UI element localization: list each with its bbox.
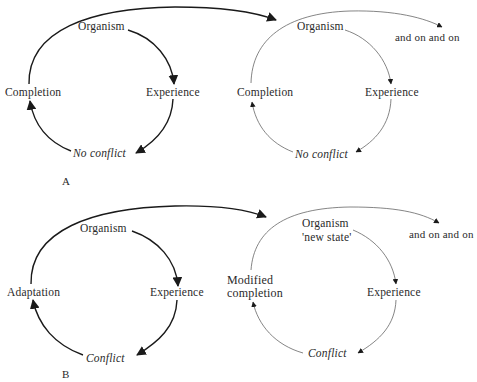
node-modified-completion-line2: completion	[227, 287, 283, 300]
continuation-text: and on and on	[409, 228, 474, 241]
node-outcome: No conflict	[295, 148, 348, 161]
node-adaptation: Adaptation	[7, 286, 60, 299]
cycle-diagram-arrows	[0, 0, 477, 382]
node-organism: Organism	[297, 20, 344, 33]
node-organism: Organism	[78, 20, 125, 33]
node-outcome: Conflict	[86, 352, 125, 365]
node-outcome: No conflict	[73, 147, 126, 160]
node-completion: Completion	[5, 86, 61, 99]
node-experience: Experience	[150, 286, 204, 299]
node-completion: Completion	[237, 86, 293, 99]
panel-letter-a: A	[62, 175, 70, 187]
continuation-text: and on and on	[395, 31, 460, 44]
panel-letter-b: B	[62, 368, 69, 380]
node-experience: Experience	[367, 286, 421, 299]
panel-a-cycle-1-arrows	[29, 7, 276, 153]
node-organism: Organism	[80, 222, 127, 235]
node-outcome: Conflict	[308, 347, 347, 360]
node-organism: Organism	[302, 217, 349, 230]
node-experience: Experience	[365, 86, 419, 99]
node-experience: Experience	[146, 86, 200, 99]
node-organism-state: 'new state'	[302, 231, 351, 244]
